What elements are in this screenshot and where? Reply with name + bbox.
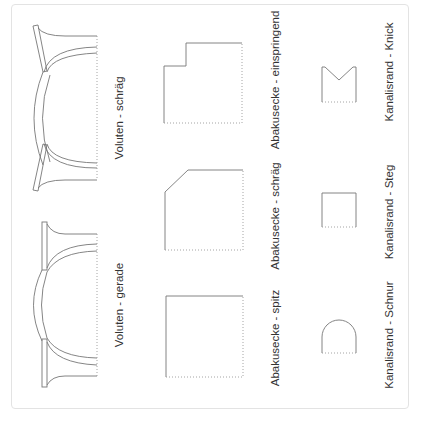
diagram-canvas — [0, 0, 421, 424]
label-abakusecke-schraeg: Abakusecke - schräg — [269, 162, 281, 269]
abakusecke-schraeg-figure — [165, 170, 243, 250]
label-kanalisrand-steg: Kanalisrand - Steg — [383, 165, 395, 260]
kanalisrand-steg-figure — [322, 193, 356, 227]
kanalisrand-schnur-figure — [322, 320, 356, 353]
voluten-gerade-figure — [34, 222, 98, 387]
label-abakusecke-einspringend: Abakusecke - einspringend — [269, 11, 281, 150]
label-voluten-schraeg: Voluten - schräg — [113, 76, 125, 159]
label-kanalisrand-schnur: Kanalisrand - Schnur — [383, 281, 395, 388]
abakusecke-spitz-figure — [166, 296, 243, 377]
voluten-schraeg-figure — [33, 25, 97, 191]
label-abakusecke-spitz: Abakusecke - spitz — [269, 290, 281, 387]
abakusecke-einspringend-figure — [164, 43, 242, 123]
label-voluten-gerade: Voluten - gerade — [113, 263, 125, 347]
kanalisrand-knick-figure — [322, 67, 356, 102]
label-kanalisrand-knick: Kanalisrand - Knick — [383, 22, 395, 121]
